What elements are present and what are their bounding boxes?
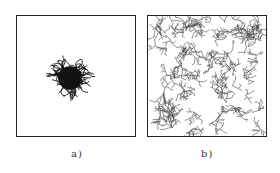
sparse-network-image	[148, 16, 266, 136]
panel-a-frame	[16, 15, 136, 137]
dense-cluster-image	[17, 16, 135, 136]
caption-a: a)	[71, 148, 83, 159]
panel-b-frame	[147, 15, 267, 137]
caption-b: b)	[201, 148, 213, 159]
